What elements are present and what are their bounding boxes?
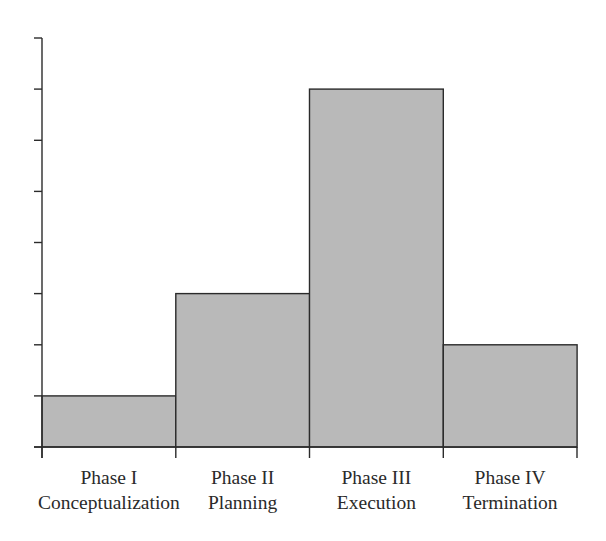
- histogram-chart: [0, 0, 606, 541]
- bar-1: [42, 396, 176, 447]
- x-ticks: [42, 447, 577, 458]
- category-label-phase-2: Phase II Planning: [208, 465, 277, 515]
- bar-3: [310, 89, 444, 447]
- category-label-phase-3: Phase III Execution: [337, 465, 416, 515]
- y-ticks: [34, 38, 42, 447]
- category-label-line1: Phase IV: [463, 465, 558, 490]
- category-label-line2: Conceptualization: [38, 490, 180, 515]
- category-label-line1: Phase I: [38, 465, 180, 490]
- category-label-line2: Planning: [208, 490, 277, 515]
- bar-4: [443, 345, 577, 447]
- category-label-line2: Execution: [337, 490, 416, 515]
- category-label-line1: Phase II: [208, 465, 277, 490]
- bars-group: [42, 89, 577, 447]
- category-label-line1: Phase III: [337, 465, 416, 490]
- category-label-line2: Termination: [463, 490, 558, 515]
- category-label-phase-1: Phase I Conceptualization: [38, 465, 180, 515]
- bar-2: [176, 294, 310, 447]
- category-label-phase-4: Phase IV Termination: [463, 465, 558, 515]
